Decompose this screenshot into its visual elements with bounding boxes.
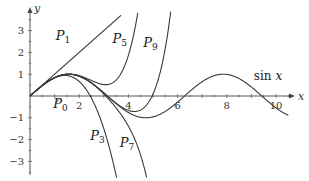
x-axis-label: x <box>298 90 305 103</box>
y-tick-label: 2 <box>18 47 24 58</box>
curve-label-p3: P3 <box>89 128 105 145</box>
curve-p_9 <box>30 12 171 112</box>
x-tick-label: 2 <box>76 100 82 111</box>
y-tick-label: 1 <box>18 69 24 80</box>
y-tick-label: 3 <box>18 25 24 36</box>
curve-p_5 <box>30 13 138 96</box>
curve-label-p0: P0 <box>52 96 68 113</box>
x-axis-arrow-icon <box>289 94 295 99</box>
taylor-polynomial-chart: 246810−3−2−1123xy P0P1P3P5P7P9sin x <box>0 0 309 181</box>
curve-p_3 <box>30 75 117 177</box>
curve-label-p1: P1 <box>55 28 70 45</box>
y-axis-arrow-icon <box>28 7 33 13</box>
curve-p_7 <box>30 74 147 177</box>
x-tick-label: 8 <box>224 100 230 111</box>
y-tick-label: −3 <box>9 156 24 167</box>
y-axis-label: y <box>33 2 41 15</box>
curve-label-sin: sin x <box>254 69 283 83</box>
y-tick-label: −2 <box>9 134 24 145</box>
curve-label-p7: P7 <box>119 135 135 152</box>
axes: 246810−3−2−1123xy <box>9 2 305 175</box>
y-tick-label: −1 <box>9 112 24 123</box>
x-tick-label: 10 <box>270 100 283 111</box>
curve-label-p5: P5 <box>111 31 127 48</box>
curve-label-p9: P9 <box>142 35 158 52</box>
